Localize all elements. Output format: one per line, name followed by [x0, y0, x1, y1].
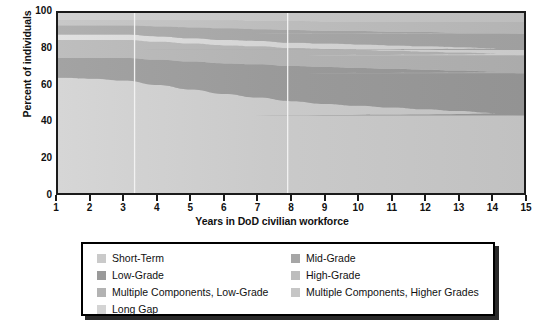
x-tick-label: 13 — [444, 202, 474, 213]
x-tick-mark — [223, 195, 225, 201]
figure-stacked-area-chart: Percent of individuals 020406080100 1234… — [0, 0, 544, 328]
x-tick-label: 15 — [511, 202, 541, 213]
x-tick-label: 4 — [142, 202, 172, 213]
x-tick-label: 1 — [41, 202, 71, 213]
x-tick-label: 8 — [276, 202, 306, 213]
legend-item-label: Low-Grade — [112, 269, 164, 281]
x-tick-label: 14 — [477, 202, 507, 213]
x-tick-mark — [357, 195, 359, 201]
x-tick-mark — [189, 195, 191, 201]
chart-region: Percent of individuals 020406080100 1234… — [0, 0, 544, 232]
x-tick-mark — [525, 195, 527, 201]
legend-swatch-icon — [291, 288, 300, 297]
x-tick-mark — [122, 195, 124, 201]
legend-swatch-icon — [97, 288, 106, 297]
legend-item-label: High-Grade — [306, 269, 360, 281]
x-tick-label: 12 — [410, 202, 440, 213]
legend-item[interactable]: Long Gap — [97, 303, 158, 315]
x-tick-mark — [458, 195, 460, 201]
legend-swatch-icon — [291, 254, 300, 263]
x-tick-mark — [290, 195, 292, 201]
x-tick-mark — [391, 195, 393, 201]
x-tick-mark — [324, 195, 326, 201]
x-axis-title: Years in DoD civilian workforce — [0, 215, 544, 227]
legend-item[interactable]: High-Grade — [291, 269, 360, 281]
x-tick-label: 3 — [108, 202, 138, 213]
legend-items: Short-TermMid-GradeLow-GradeHigh-GradeMu… — [83, 244, 493, 314]
legend-item[interactable]: Multiple Components, Low-Grade — [97, 286, 268, 298]
legend-item[interactable]: Mid-Grade — [291, 252, 356, 264]
legend-swatch-icon — [97, 271, 106, 280]
x-tick-mark — [424, 195, 426, 201]
x-tick-label: 10 — [343, 202, 373, 213]
x-tick-label: 9 — [310, 202, 340, 213]
x-tick-mark — [55, 195, 57, 201]
x-tick-mark — [89, 195, 91, 201]
x-tick-label: 11 — [377, 202, 407, 213]
legend-box: Short-TermMid-GradeLow-GradeHigh-GradeMu… — [81, 242, 495, 316]
legend-item-label: Short-Term — [112, 252, 164, 264]
legend-swatch-icon — [97, 254, 106, 263]
x-axis-ticks: 123456789101112131415 — [0, 0, 544, 232]
legend-swatch-icon — [97, 305, 106, 314]
legend-item-label: Multiple Components, Higher Grades — [306, 286, 479, 298]
legend-item-label: Long Gap — [112, 303, 158, 315]
x-tick-label: 7 — [242, 202, 272, 213]
x-tick-mark — [156, 195, 158, 201]
legend-item[interactable]: Low-Grade — [97, 269, 164, 281]
legend-item-label: Multiple Components, Low-Grade — [112, 286, 268, 298]
x-tick-mark — [491, 195, 493, 201]
legend-item-label: Mid-Grade — [306, 252, 356, 264]
legend-item[interactable]: Multiple Components, Higher Grades — [291, 286, 479, 298]
x-tick-mark — [256, 195, 258, 201]
x-tick-label: 5 — [175, 202, 205, 213]
x-tick-label: 6 — [209, 202, 239, 213]
legend-item[interactable]: Short-Term — [97, 252, 164, 264]
x-tick-label: 2 — [75, 202, 105, 213]
legend-swatch-icon — [291, 271, 300, 280]
